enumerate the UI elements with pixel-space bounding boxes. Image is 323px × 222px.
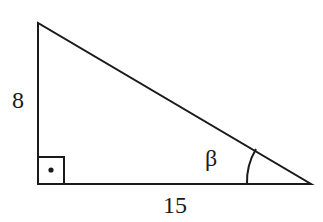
- angle-arc: [247, 149, 256, 184]
- triangle-diagram: [0, 0, 323, 222]
- triangle-outline: [38, 23, 311, 184]
- vertical-leg-label: 8: [12, 88, 24, 112]
- angle-beta-label: β: [205, 146, 217, 170]
- right-angle-dot: [48, 167, 53, 172]
- horizontal-leg-label: 15: [163, 193, 187, 217]
